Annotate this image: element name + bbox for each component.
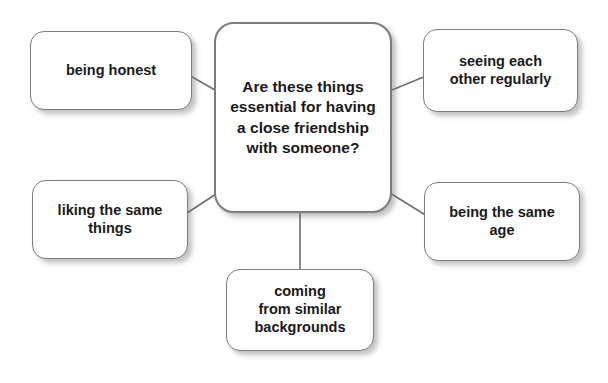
node-being-the-same-age-label: being the same age bbox=[441, 204, 563, 239]
node-coming-from-similar-backgrounds[interactable]: coming from similar backgrounds bbox=[226, 269, 374, 351]
connector-seeing-each-other-regularly bbox=[392, 76, 426, 90]
node-coming-from-similar-backgrounds-label: coming from similar backgrounds bbox=[246, 283, 353, 336]
node-liking-the-same-things-label: liking the same things bbox=[50, 202, 171, 237]
connector-liking-the-same-things bbox=[184, 194, 216, 215]
node-being-honest[interactable]: being honest bbox=[30, 31, 192, 110]
diagram-canvas: being honest Are these things essential … bbox=[0, 0, 608, 383]
node-central-question[interactable]: Are these things essential for having a … bbox=[214, 22, 392, 213]
node-seeing-each-other-regularly-label: seeing each other regularly bbox=[442, 53, 560, 88]
node-liking-the-same-things[interactable]: liking the same things bbox=[32, 180, 188, 259]
connector-being-the-same-age bbox=[390, 193, 427, 216]
node-being-honest-label: being honest bbox=[58, 62, 164, 80]
node-being-the-same-age[interactable]: being the same age bbox=[424, 182, 580, 261]
node-seeing-each-other-regularly[interactable]: seeing each other regularly bbox=[423, 29, 578, 112]
node-central-question-label: Are these things essential for having a … bbox=[216, 77, 390, 158]
